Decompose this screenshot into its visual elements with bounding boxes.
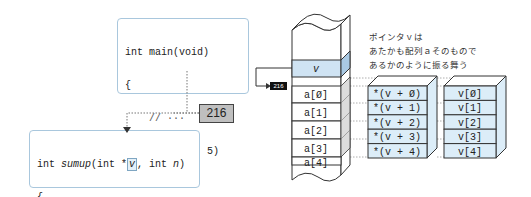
sig-post: , int — [137, 159, 173, 170]
sumup-code-box: int sumup(int *v, int n) { // ··· } — [29, 130, 200, 188]
memory-cell: a[4] — [304, 158, 328, 169]
deref-stack: *(v + Ø) *(v + 1) *(v + 2) *(v + 3) *(v … — [368, 76, 437, 158]
note-line: あるかのように振る舞う — [369, 58, 477, 72]
code-line: int main(void) — [125, 47, 241, 58]
index-cell: v[Ø] — [458, 89, 482, 100]
sig-close: ) — [179, 159, 185, 170]
address-label-small: 216 — [270, 82, 287, 90]
sig-mid: (int * — [91, 159, 127, 170]
index-cell: v[2] — [458, 118, 482, 129]
memory-cell: a[Ø] — [304, 90, 328, 101]
index-stack: v[Ø] v[1] v[2] v[3] v[4] — [444, 76, 506, 158]
note-line: ポインタｖは — [369, 30, 477, 44]
deref-cell: *(v + 4) — [373, 147, 421, 158]
index-cell: v[1] — [458, 103, 482, 114]
func-name: sumup — [61, 159, 91, 170]
sig-pre: int — [37, 159, 61, 170]
memory-cell: a[2] — [304, 126, 328, 137]
note-line: あたかも配列ａそのもので — [369, 44, 477, 58]
code-line: { — [125, 80, 241, 91]
memory-cell: a[1] — [304, 108, 328, 119]
index-cell: v[3] — [458, 132, 482, 143]
explanation-note: ポインタｖは あたかも配列ａそのもので あるかのように振る舞う — [369, 30, 477, 72]
memory-cell: a[3] — [304, 144, 328, 155]
code-line: { — [37, 192, 192, 197]
deref-cell: *(v + 2) — [373, 118, 421, 129]
deref-cell: *(v + Ø) — [373, 89, 421, 100]
sumup-signature: int sumup(int *v, int n) — [37, 159, 192, 170]
deref-cell: *(v + 3) — [373, 132, 421, 143]
index-cell: v[4] — [458, 147, 482, 158]
main-code-box: int main(void) { // ··· sumup(a, 5) // ·… — [117, 18, 249, 94]
pointer-cell-v: v — [313, 64, 320, 75]
deref-cell: *(v + 1) — [373, 103, 421, 114]
param-v-highlight: v — [127, 158, 137, 171]
memory-column: v a[Ø] a[1] a[2] a[3] a[4] — [292, 14, 350, 181]
address-tag: 216 — [199, 104, 234, 123]
